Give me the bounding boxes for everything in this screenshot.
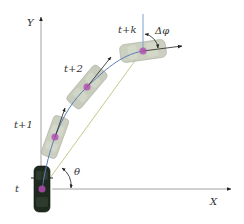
label-t1: t+1	[14, 120, 33, 130]
theta-arc	[62, 168, 71, 188]
center-marker-t	[39, 186, 46, 193]
delta-phi-label: Δφ	[155, 26, 169, 36]
center-marker-t2	[84, 84, 91, 91]
label-t: t	[15, 184, 19, 194]
x-axis-label: X	[210, 197, 217, 207]
trajectory-diagram: Y X t t+1 t+2 t+k Δφ θ	[0, 0, 244, 224]
center-marker-t1	[52, 134, 59, 141]
theta-label: θ	[74, 167, 80, 177]
label-tk: t+k	[118, 25, 136, 35]
center-marker-tk	[140, 48, 147, 55]
label-t2: t+2	[64, 64, 83, 74]
y-axis-label: Y	[27, 18, 34, 28]
